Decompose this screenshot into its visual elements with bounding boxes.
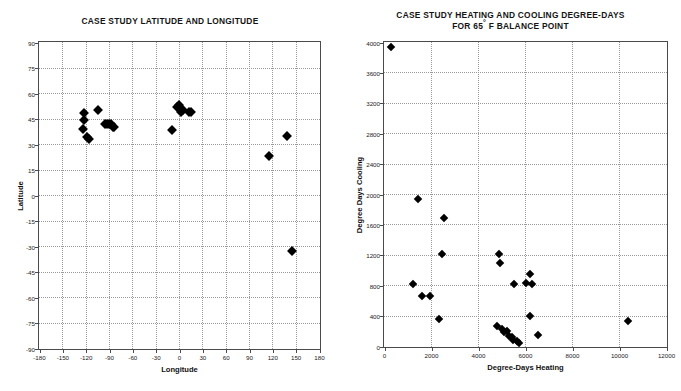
y-axis-tick-label: -75 — [26, 320, 35, 327]
y-axis-tick-mark — [35, 119, 38, 120]
x-axis-tick-mark — [385, 348, 386, 351]
data-point — [534, 331, 542, 339]
x-axis-tick-label: 8000 — [566, 352, 580, 359]
x-axis-title-left: Longitude — [38, 365, 321, 374]
y-axis-tick-label: 4000 — [366, 39, 380, 46]
x-axis-tick-mark — [180, 350, 181, 353]
y-axis-tick-label: -45 — [26, 269, 35, 276]
data-point — [426, 292, 434, 300]
y-axis-tick-mark — [35, 221, 38, 222]
x-axis-tick-mark — [573, 348, 574, 351]
x-axis-tick-label: -30 — [152, 354, 161, 361]
chart-degree-days: CASE STUDY HEATING AND COOLING DEGREE-DA… — [340, 0, 681, 391]
plot-area-left — [38, 41, 321, 350]
data-point — [167, 125, 177, 135]
x-axis-tick-mark — [296, 350, 297, 353]
y-axis-tick-mark — [380, 164, 383, 165]
data-point — [417, 292, 425, 300]
data-point — [528, 279, 536, 287]
x-axis-tick-label: 90 — [246, 354, 253, 361]
data-points-right — [384, 42, 667, 347]
y-axis-tick-label: 15 — [28, 167, 35, 174]
data-point — [437, 250, 445, 258]
x-axis-tick-label: 4000 — [472, 352, 486, 359]
x-axis-tick-label: 120 — [268, 354, 278, 361]
y-axis-tick-label: -15 — [26, 218, 35, 225]
data-point — [495, 250, 503, 258]
data-point — [435, 315, 443, 323]
x-axis-tick-label: 6000 — [519, 352, 533, 359]
data-point — [387, 42, 395, 50]
y-axis-tick-mark — [380, 347, 383, 348]
x-axis-tick-label: 10000 — [611, 352, 628, 359]
y-axis-tick-label: 400 — [370, 313, 380, 320]
y-axis-tick-label: 3200 — [366, 100, 380, 107]
y-axis-tick-mark — [380, 255, 383, 256]
y-axis-tick-mark — [35, 349, 38, 350]
data-points-left — [39, 42, 320, 349]
data-point — [79, 115, 89, 125]
y-axis-tick-mark — [35, 43, 38, 44]
y-axis-tick-mark — [380, 103, 383, 104]
x-axis-tick-mark — [250, 350, 251, 353]
data-point — [496, 259, 504, 267]
figure-container: CASE STUDY LATITUDE AND LONGITUDE -90-75… — [0, 0, 681, 391]
y-axis-tick-label: 90 — [28, 39, 35, 46]
x-axis-tick-mark — [40, 350, 41, 353]
x-axis-tick-mark — [133, 350, 134, 353]
data-point — [287, 246, 297, 256]
y-axis-tick-label: 30 — [28, 141, 35, 148]
y-axis-tick-label: 2400 — [366, 161, 380, 168]
chart-title-right-line2-pre: FOR 65 — [452, 21, 483, 31]
x-axis-tick-mark — [86, 350, 87, 353]
y-axis-tick-label: 60 — [28, 90, 35, 97]
y-axis-tick-mark — [380, 43, 383, 44]
x-axis-tick-mark — [479, 348, 480, 351]
data-point — [525, 270, 533, 278]
y-axis-title-left: Latitude — [16, 181, 25, 211]
y-axis-tick-label: -30 — [26, 243, 35, 250]
x-axis-tick-mark — [110, 350, 111, 353]
y-axis-tick-label: -60 — [26, 294, 35, 301]
y-axis-tick-mark — [35, 145, 38, 146]
x-axis-tick-mark — [526, 348, 527, 351]
y-axis-tick-mark — [380, 225, 383, 226]
x-axis-tick-label: -120 — [80, 354, 92, 361]
y-axis-title-right: Degree Days Cooling — [355, 156, 364, 232]
data-point — [414, 195, 422, 203]
x-axis-tick-label: 180 — [314, 354, 324, 361]
x-axis-tick-mark — [432, 348, 433, 351]
chart-title-right: CASE STUDY HEATING AND COOLING DEGREE-DA… — [340, 10, 681, 32]
x-axis-tick-label: 30 — [199, 354, 206, 361]
y-axis-tick-label: -90 — [26, 345, 35, 352]
x-axis-tick-label: -180 — [33, 354, 45, 361]
x-axis-tick-mark — [620, 348, 621, 351]
x-axis-tick-mark — [320, 350, 321, 353]
x-axis-tick-mark — [226, 350, 227, 353]
data-point — [93, 105, 103, 115]
y-axis-tick-mark — [35, 196, 38, 197]
y-axis-tick-mark — [35, 170, 38, 171]
y-axis-tick-mark — [35, 298, 38, 299]
x-axis-tick-label: -150 — [57, 354, 69, 361]
x-axis-tick-label: 150 — [291, 354, 301, 361]
chart-latitude-longitude: CASE STUDY LATITUDE AND LONGITUDE -90-75… — [0, 0, 340, 391]
x-axis-tick-label: 12000 — [658, 352, 675, 359]
chart-title-left: CASE STUDY LATITUDE AND LONGITUDE — [0, 16, 340, 27]
x-axis-tick-label: 0 — [383, 352, 386, 359]
chart-title-right-line2: FOR 65° F BALANCE POINT — [340, 21, 681, 32]
data-point — [515, 339, 523, 347]
data-point — [440, 214, 448, 222]
y-axis-tick-label: 800 — [370, 282, 380, 289]
y-axis-tick-mark — [35, 323, 38, 324]
y-axis-tick-mark — [35, 68, 38, 69]
y-axis-tick-mark — [380, 195, 383, 196]
y-axis-tick-label: 45 — [28, 116, 35, 123]
y-axis-tick-mark — [35, 272, 38, 273]
y-axis-tick-label: 1600 — [366, 221, 380, 228]
x-axis-tick-label: -90 — [105, 354, 114, 361]
x-axis-tick-label: -60 — [128, 354, 137, 361]
y-axis-tick-label: 2000 — [366, 191, 380, 198]
y-axis-tick-label: 2800 — [366, 130, 380, 137]
chart-title-right-line1: CASE STUDY HEATING AND COOLING DEGREE-DA… — [340, 10, 681, 21]
